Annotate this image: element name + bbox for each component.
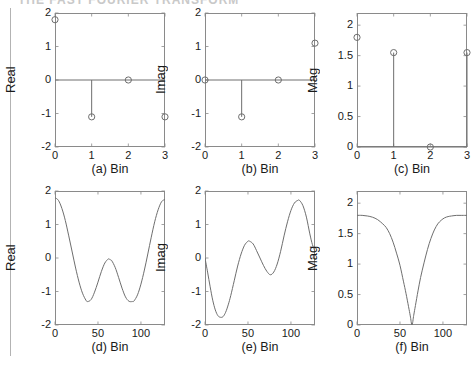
data-curve: [205, 200, 315, 318]
ytick-label-b: 0: [175, 73, 201, 85]
ylabel-f: Mag: [305, 230, 321, 286]
ytick-label-b: 1: [175, 40, 201, 52]
ytick-label-e: 1: [175, 218, 201, 230]
data-marker: [52, 17, 58, 23]
ytick-label-d: 1: [25, 218, 51, 230]
ytick-label-b: -1: [175, 107, 201, 119]
ylabel-a: Real: [3, 52, 19, 108]
xtick-label-f: 0: [342, 327, 372, 339]
xtick-label-a: 2: [113, 149, 143, 161]
ytick-label-a: -2: [25, 140, 51, 152]
subplot-d: -2-1012050100Real(d) Bin: [0, 0, 473, 374]
ytick-label-a: -1: [25, 107, 51, 119]
xtick-label-c: 0: [342, 149, 372, 161]
xtick-label-e: 50: [233, 327, 263, 339]
ytick-label-b: -2: [175, 140, 201, 152]
ytick-label-f: 2: [327, 196, 353, 208]
plot-data-d: [0, 0, 473, 374]
ylabel-e: Imag: [153, 230, 169, 286]
xtick-label-a: 1: [77, 149, 107, 161]
xtick-label-b: 1: [227, 149, 257, 161]
data-marker: [391, 49, 397, 55]
caption-b: (b) Bin: [210, 162, 310, 176]
ytick-label-f: 1: [327, 257, 353, 269]
xtick-label-a: 3: [150, 149, 180, 161]
xtick-label-c: 1: [379, 149, 409, 161]
cropped-header-label: THE FAST FOURIER TRANSFORM: [18, 0, 239, 7]
ytick-label-e: -2: [175, 318, 201, 330]
data-marker: [354, 34, 360, 40]
data-marker: [239, 114, 245, 120]
data-curve: [357, 215, 467, 325]
data-marker: [89, 114, 95, 120]
ytick-label-d: -2: [25, 318, 51, 330]
caption-c: (c) Bin: [362, 162, 462, 176]
xtick-label-e: 100: [276, 327, 306, 339]
xtick-label-b: 2: [263, 149, 293, 161]
data-marker: [464, 49, 470, 55]
xtick-label-e: 0: [190, 327, 220, 339]
ytick-label-e: 2: [175, 184, 201, 196]
subplot-c: 00.511.520123Mag(c) Bin: [0, 0, 473, 374]
plot-frame-b: [205, 13, 315, 147]
xtick-label-f: 100: [428, 327, 458, 339]
xtick-label-a: 0: [40, 149, 70, 161]
xtick-label-b: 0: [190, 149, 220, 161]
cropped-header-text: THE FAST FOURIER TRANSFORM: [0, 0, 473, 9]
data-marker: [427, 144, 433, 150]
ylabel-d: Real: [3, 230, 19, 286]
data-marker: [162, 114, 168, 120]
plot-data-b: [0, 0, 473, 374]
ytick-label-d: -1: [25, 285, 51, 297]
plot-frame-a: [55, 13, 165, 147]
plot-data-e: [0, 0, 473, 374]
xtick-label-d: 0: [40, 327, 70, 339]
plot-data-a: [0, 0, 473, 374]
data-marker: [312, 40, 318, 46]
caption-d: (d) Bin: [60, 340, 160, 354]
ytick-label-d: 0: [25, 251, 51, 263]
ytick-label-e: -1: [175, 285, 201, 297]
plot-frame-c: [357, 13, 467, 147]
data-marker: [202, 77, 208, 83]
page-margin-rule: [10, 8, 11, 356]
subplot-f: 00.511.52050100Mag(f) Bin: [0, 0, 473, 374]
plot-frame-d: [55, 191, 165, 325]
xtick-label-b: 3: [300, 149, 330, 161]
ytick-label-f: 0.5: [327, 288, 353, 300]
ytick-label-c: 2: [327, 18, 353, 30]
ytick-label-c: 1.5: [327, 49, 353, 61]
ytick-label-c: 0.5: [327, 110, 353, 122]
xtick-label-f: 50: [385, 327, 415, 339]
data-marker: [125, 77, 131, 83]
plot-frame-e: [205, 191, 315, 325]
figure-panel: THE FAST FOURIER TRANSFORM -2-10120123Re…: [0, 0, 473, 374]
ytick-label-f: 1.5: [327, 227, 353, 239]
ytick-label-a: 1: [25, 40, 51, 52]
subplot-b: -2-10120123Imag(b) Bin: [0, 0, 473, 374]
data-curve: [55, 198, 165, 302]
xtick-label-d: 100: [126, 327, 156, 339]
data-marker: [275, 77, 281, 83]
subplot-e: -2-1012050100Imag(e) Bin: [0, 0, 473, 374]
caption-f: (f) Bin: [362, 340, 462, 354]
subplot-a: -2-10120123Real(a) Bin: [0, 0, 473, 374]
plot-data-f: [0, 0, 473, 374]
ylabel-b: Imag: [153, 52, 169, 108]
plot-frame-f: [357, 191, 467, 325]
ytick-label-d: 2: [25, 184, 51, 196]
ytick-label-e: 0: [175, 251, 201, 263]
xtick-label-c: 2: [415, 149, 445, 161]
ytick-label-c: 0: [327, 140, 353, 152]
xtick-label-c: 3: [452, 149, 473, 161]
xtick-label-d: 50: [83, 327, 113, 339]
ytick-label-f: 0: [327, 318, 353, 330]
caption-a: (a) Bin: [60, 162, 160, 176]
ylabel-c: Mag: [305, 52, 321, 108]
plot-data-c: [0, 0, 473, 374]
ytick-label-a: 0: [25, 73, 51, 85]
ytick-label-c: 1: [327, 79, 353, 91]
caption-e: (e) Bin: [210, 340, 310, 354]
